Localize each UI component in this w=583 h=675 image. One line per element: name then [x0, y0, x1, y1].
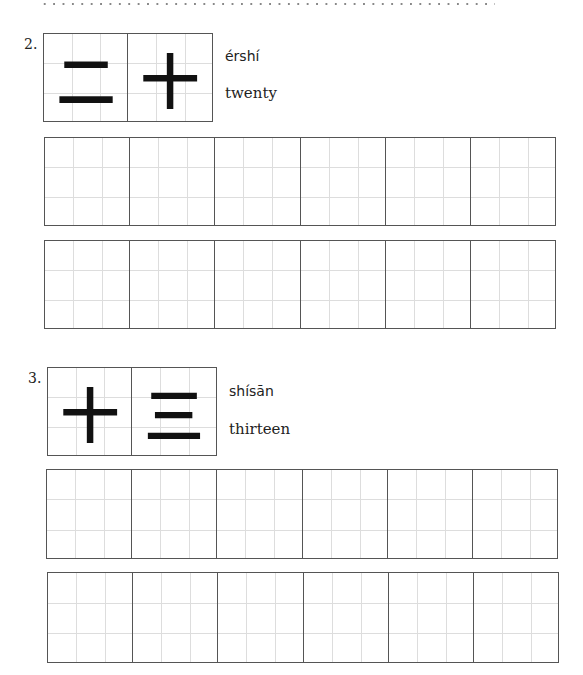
practice-cell[interactable] [215, 138, 300, 225]
practice-cell[interactable] [301, 241, 386, 328]
practice-cell[interactable] [474, 573, 558, 662]
item-number: 2. [24, 36, 37, 52]
practice-cell[interactable] [130, 241, 215, 328]
practice-cell[interactable] [133, 573, 218, 662]
practice-cell[interactable] [471, 241, 555, 328]
practice-row[interactable] [44, 137, 556, 226]
practice-cell[interactable] [45, 138, 130, 225]
practice-cell[interactable] [45, 241, 130, 328]
model-cell: 三 [132, 368, 216, 455]
character-model-box: 十 三 [47, 367, 217, 456]
model-cell: 十 [48, 368, 132, 455]
model-cell: 十 [128, 34, 212, 121]
practice-row[interactable] [44, 240, 556, 329]
practice-cell[interactable] [388, 470, 473, 558]
dotted-separator [40, 2, 495, 6]
practice-cell[interactable] [386, 138, 471, 225]
practice-cell[interactable] [473, 470, 557, 558]
practice-cell[interactable] [389, 573, 474, 662]
practice-row[interactable] [46, 469, 558, 559]
pinyin: shísān [229, 383, 274, 399]
meaning: thirteen [229, 420, 290, 438]
practice-cell[interactable] [217, 470, 302, 558]
model-character: 三 [132, 368, 216, 455]
item-number: 3. [28, 370, 41, 386]
practice-cell[interactable] [215, 241, 300, 328]
model-character: 十 [48, 368, 131, 455]
practice-cell[interactable] [301, 138, 386, 225]
character-model-box: 二 十 [43, 33, 213, 122]
practice-cell[interactable] [218, 573, 303, 662]
practice-cell[interactable] [47, 470, 132, 558]
practice-cell[interactable] [130, 138, 215, 225]
pinyin: érshí [225, 48, 259, 64]
practice-row[interactable] [47, 572, 559, 663]
practice-cell[interactable] [132, 470, 217, 558]
practice-cell[interactable] [304, 573, 389, 662]
practice-cell[interactable] [303, 470, 388, 558]
meaning: twenty [225, 84, 277, 102]
practice-cell[interactable] [471, 138, 555, 225]
model-character: 二 [44, 34, 127, 121]
model-cell: 二 [44, 34, 128, 121]
practice-cell[interactable] [48, 573, 133, 662]
practice-cell[interactable] [386, 241, 471, 328]
model-character: 十 [128, 34, 212, 121]
